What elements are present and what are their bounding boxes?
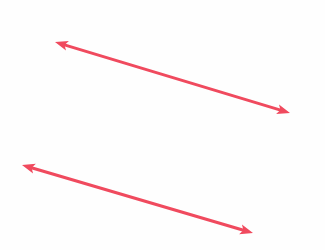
arrow-diagram: [0, 0, 325, 250]
drawing-canvas: [0, 0, 325, 250]
canvas-background: [0, 0, 325, 250]
